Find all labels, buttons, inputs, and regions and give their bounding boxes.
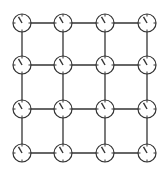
clock-icon	[96, 100, 114, 118]
clock-icon	[13, 100, 31, 118]
clock-icon	[54, 100, 72, 118]
clock-icon	[54, 56, 72, 74]
edges	[22, 23, 147, 153]
clock-icon	[13, 14, 31, 32]
clock-icon	[96, 144, 114, 162]
clock-icon	[138, 144, 156, 162]
clock-icon	[138, 100, 156, 118]
clock-icon	[96, 14, 114, 32]
clock-icon	[138, 14, 156, 32]
clock-icon	[96, 56, 114, 74]
clock-icon	[54, 14, 72, 32]
clock-icon	[13, 56, 31, 74]
clock-icon	[138, 56, 156, 74]
clock-icon	[13, 144, 31, 162]
nodes	[13, 14, 156, 162]
grid-graph-diagram	[0, 0, 168, 173]
clock-icon	[54, 144, 72, 162]
